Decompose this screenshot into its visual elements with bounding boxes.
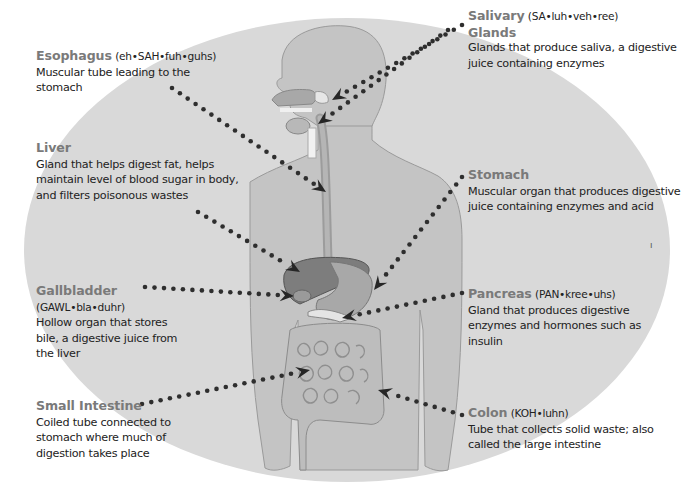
leader-dot bbox=[224, 385, 229, 390]
leader-dot bbox=[392, 67, 397, 72]
leader-dot bbox=[289, 372, 294, 377]
leader-dot bbox=[405, 396, 410, 401]
leader-dot bbox=[407, 242, 412, 247]
label-esophagus: Esophagus (eh•SAH•fuh•guhs) Muscular tub… bbox=[36, 48, 236, 96]
leader-dot bbox=[338, 106, 343, 111]
leader-dot bbox=[423, 299, 428, 304]
leader-dot bbox=[241, 134, 246, 139]
leader-dot bbox=[296, 171, 301, 176]
leader-dot bbox=[384, 272, 389, 277]
leader-dot bbox=[196, 390, 201, 395]
label-description: Coiled tube connected to stomach where m… bbox=[36, 415, 186, 462]
leader-dot bbox=[442, 197, 447, 202]
label-name: Esophagus bbox=[36, 48, 112, 63]
leader-dot bbox=[353, 95, 358, 100]
leader-dot bbox=[419, 46, 424, 51]
leader-dot bbox=[395, 304, 400, 309]
leader-dot bbox=[214, 387, 219, 392]
leader-dot bbox=[448, 190, 453, 195]
leader-dot bbox=[233, 128, 238, 133]
leader-dot bbox=[253, 243, 258, 248]
leader-dot bbox=[436, 205, 441, 210]
leader-dot bbox=[346, 100, 351, 105]
leader-dot bbox=[330, 111, 335, 116]
stray-mark: ı bbox=[650, 240, 653, 250]
leader-dot bbox=[261, 377, 266, 382]
label-name: Pancreas bbox=[468, 286, 532, 301]
label-liver: Liver Gland that helps digest fat, helps… bbox=[36, 140, 256, 203]
leader-dot bbox=[196, 210, 201, 215]
leader-dot bbox=[441, 295, 446, 300]
leader-dot bbox=[435, 37, 440, 42]
leader-dot bbox=[432, 405, 437, 410]
leader-dot bbox=[357, 312, 362, 317]
label-small-intestine: Small Intestine Coiled tube connected to… bbox=[36, 398, 186, 461]
label-pronunciation: (GAWL•bla•duhr) bbox=[36, 300, 186, 316]
leader-dot bbox=[225, 123, 230, 128]
leader-dot bbox=[238, 290, 243, 295]
label-pronunciation: (SA•luh•veh•ree) bbox=[528, 10, 618, 22]
leader-dot bbox=[385, 306, 390, 311]
leader-dot bbox=[396, 394, 401, 399]
trachea-shape bbox=[308, 128, 316, 158]
leader-dot bbox=[423, 402, 428, 407]
leader-dot bbox=[193, 102, 198, 107]
leader-dot bbox=[376, 78, 381, 83]
leader-dot bbox=[186, 392, 191, 397]
leader-dot bbox=[353, 84, 358, 89]
leader-dot bbox=[237, 234, 242, 239]
leader-dot bbox=[460, 23, 465, 28]
leader-dot bbox=[361, 89, 366, 94]
leader-dot bbox=[276, 293, 281, 298]
leader-dot bbox=[384, 72, 389, 77]
leader-dot bbox=[279, 373, 284, 378]
digestive-system-diagram: Esophagus (eh•SAH•fuh•guhs) Muscular tub… bbox=[0, 0, 690, 500]
leader-dot bbox=[209, 112, 214, 117]
leader-dot bbox=[217, 118, 222, 123]
leader-dot bbox=[369, 83, 374, 88]
leader-dot bbox=[404, 302, 409, 307]
leader-dot bbox=[394, 61, 399, 66]
leader-dot bbox=[228, 290, 233, 295]
leader-dot bbox=[257, 292, 262, 297]
leader-dot bbox=[367, 310, 372, 315]
leader-dot bbox=[264, 150, 269, 155]
leader-dot bbox=[220, 224, 225, 229]
label-colon: Colon (KOH•luhn) Tube that collects soli… bbox=[468, 405, 688, 453]
leader-dot bbox=[229, 229, 234, 234]
gallbladder-shape bbox=[293, 290, 311, 302]
leader-dot bbox=[452, 27, 457, 32]
leader-dot bbox=[460, 413, 465, 418]
label-description: Hollow organ that stores bile, a digesti… bbox=[36, 315, 186, 362]
leader-dot bbox=[269, 253, 274, 258]
label-description: Muscular organ that produces digestive j… bbox=[468, 184, 688, 215]
leader-dot bbox=[401, 250, 406, 255]
leader-dot bbox=[400, 61, 405, 66]
label-description: Muscular tube leading to the stomach bbox=[36, 65, 236, 96]
leader-dot bbox=[304, 176, 309, 181]
leader-dot bbox=[190, 288, 195, 293]
label-pronunciation: (eh•SAH•fuh•guhs) bbox=[115, 50, 216, 62]
leader-dot bbox=[376, 308, 381, 313]
leader-dot bbox=[450, 293, 455, 298]
leader-dot bbox=[390, 265, 395, 270]
leader-dot bbox=[451, 410, 456, 415]
leader-dot bbox=[278, 258, 283, 263]
leader-dot bbox=[438, 33, 443, 38]
leader-dot bbox=[209, 289, 214, 294]
leader-dot bbox=[219, 289, 224, 294]
leader-dot bbox=[414, 399, 419, 404]
leader-dot bbox=[425, 220, 430, 225]
leader-dot bbox=[442, 407, 447, 412]
leader-dot bbox=[396, 257, 401, 262]
leader-dot bbox=[369, 75, 374, 80]
label-pronunciation: (PAN•kree•uhs) bbox=[535, 288, 615, 300]
leader-dot bbox=[280, 160, 285, 165]
label-name: Colon bbox=[468, 405, 507, 420]
leader-dot bbox=[245, 239, 250, 244]
leader-dot bbox=[454, 182, 459, 187]
leader-dot bbox=[200, 288, 205, 293]
leader-dot bbox=[446, 28, 451, 33]
leader-dot bbox=[386, 65, 391, 70]
label-pancreas: Pancreas (PAN•kree•uhs) Gland that produ… bbox=[468, 286, 668, 349]
